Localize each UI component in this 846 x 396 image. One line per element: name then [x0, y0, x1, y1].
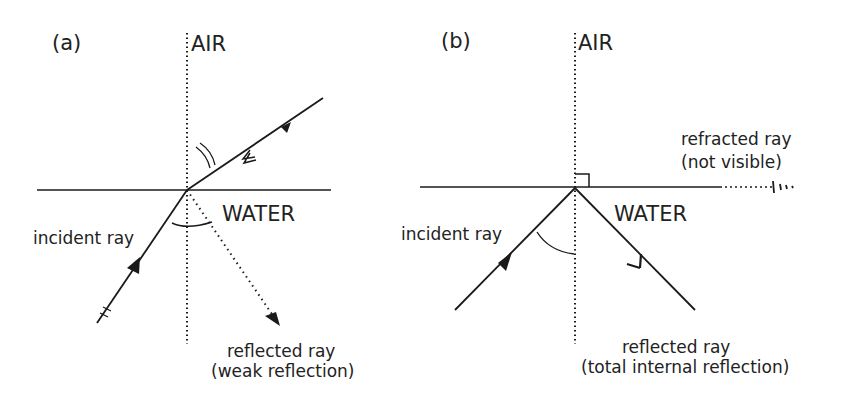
panel-a-water-label: WATER — [222, 202, 295, 226]
panel-a-air-label: AIR — [191, 32, 226, 56]
panel-b-incident-label: incident ray — [401, 224, 502, 244]
panel-b-reflected-label-2: (total internal reflection) — [581, 357, 789, 377]
panel-b-reflected-arrow-icon — [627, 254, 641, 268]
panel-b-right-angle-icon — [575, 174, 589, 187]
panel-a-incident-label: incident ray — [33, 228, 134, 248]
panel-a-reflected-arrow-icon — [265, 312, 280, 326]
panel-b-refracted-label-1: refracted ray — [681, 129, 792, 149]
panel-b-refracted-label-2: (not visible) — [681, 152, 782, 172]
panel-a-reflected-label-2: (weak reflection) — [211, 361, 354, 381]
panel-a-angle-arc-water — [172, 222, 212, 226]
panel-a-refracted-ray — [187, 98, 323, 190]
panel-b-incident-arrow-icon — [498, 252, 512, 271]
refraction-diagram: (a) AIR WATER incident ray reflected ray… — [0, 0, 846, 396]
panel-a-incident-arrow-icon — [127, 257, 140, 274]
panel-a-label: (a) — [52, 31, 81, 55]
panel-a-reflected-label-1: reflected ray — [227, 341, 335, 361]
panel-b-water-label: WATER — [614, 202, 687, 226]
panel-b-refracted-arrow-icon — [773, 181, 793, 193]
panel-a-incident-ray — [97, 190, 187, 323]
panel-b: (b) AIR refracted ray (not visible) WATE… — [401, 29, 793, 377]
panel-b-label: (b) — [441, 29, 471, 53]
panel-a-arrow-in-icon — [243, 150, 256, 163]
panel-a: (a) AIR WATER incident ray reflected ray… — [33, 31, 354, 381]
panel-b-angle-arc — [537, 232, 574, 254]
panel-b-reflected-label-1: reflected ray — [622, 337, 730, 357]
panel-b-air-label: AIR — [578, 31, 613, 55]
